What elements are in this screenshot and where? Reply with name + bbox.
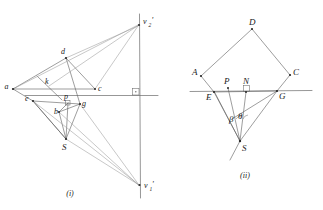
figure-i-ray-s-to-v1 <box>66 139 139 185</box>
figure-ii-group: A C D E G N P S β θ (ii) <box>190 17 312 180</box>
figure-i-point-g <box>79 103 81 105</box>
figure-i-label-v2-base: v <box>143 17 147 26</box>
figure-ii-label-c: C <box>293 67 300 77</box>
figure-i-label-v1-base: v <box>144 181 148 190</box>
figure-ii-edge-a-e <box>201 76 214 92</box>
figure-i-vertical-axis <box>140 14 141 198</box>
figure-ii-point-e <box>213 91 215 93</box>
figure-i-label-v1-prime: ' <box>152 180 154 189</box>
figure-ii-label-e: E <box>205 92 212 102</box>
figure-ii-right-angle-mark-at-n <box>244 86 250 92</box>
figure-ii-point-d <box>251 28 253 30</box>
figure-ii-extension-below-s <box>230 141 240 160</box>
figure-i-ray-e-to-v1 <box>33 101 139 185</box>
figure-i-point-a <box>12 88 14 90</box>
figure-i-label-p: p <box>63 92 68 101</box>
figure-i-point-d <box>65 57 67 59</box>
figure-ii-label-p: P <box>223 76 230 86</box>
figure-ii-edge-a-d-c <box>201 29 290 76</box>
figure-ii-label-n: N <box>242 76 250 86</box>
figure-ii-point-a <box>200 75 202 77</box>
figure-i-edge-e-g <box>33 101 80 104</box>
figure-i-point-v2 <box>138 24 140 26</box>
figure-sheet: a c d k e b p g S v 2 ' v 1 ' (i) <box>0 0 323 210</box>
figure-ii-edge-e-s-secondary <box>215 93 240 141</box>
figure-i-label-s: S <box>62 142 67 152</box>
figure-i-group: a c d k e b p g S v 2 ' v 1 ' (i) <box>5 14 159 198</box>
figure-ii-label-theta: θ <box>238 111 243 121</box>
figure-i-label-k: k <box>45 77 49 86</box>
figure-i-label-c: c <box>98 84 102 93</box>
figure-i-point-v1 <box>138 184 140 186</box>
figure-ii-label-beta: β <box>228 114 234 124</box>
figure-i-ray-b-to-v1 <box>59 112 139 186</box>
figure-i-label-v1: v 1 ' <box>144 180 154 192</box>
figure-i-point-c <box>94 88 96 90</box>
figure-ii-edge-c-g <box>277 75 290 91</box>
figure-ii-point-p <box>227 87 229 89</box>
figure-ii-label-g: G <box>279 91 286 101</box>
figure-i-caption: (i) <box>66 189 74 198</box>
figure-ii-label-a: A <box>191 67 198 77</box>
figure-i-label-g: g <box>82 99 86 108</box>
figure-ii-point-s <box>239 140 241 142</box>
figure-i-right-angle-dot <box>135 91 136 92</box>
figure-i-label-d: d <box>61 47 66 56</box>
technical-drawing-canvas: a c d k e b p g S v 2 ' v 1 ' (i) <box>0 0 323 210</box>
figure-i-point-s <box>65 138 67 140</box>
figure-i-edge-b-p <box>59 103 68 112</box>
figure-i-label-v2: v 2 ' <box>143 16 154 28</box>
figure-i-point-e <box>32 100 34 102</box>
figure-i-label-b: b <box>54 107 58 116</box>
figure-ii-label-d: D <box>248 17 256 27</box>
figure-i-label-e: e <box>25 94 29 103</box>
figure-i-edge-g-s <box>66 104 80 139</box>
figure-i-ray-g-to-v1 <box>80 104 139 185</box>
figure-i-edge-d-g <box>66 58 80 104</box>
figure-i-point-b <box>58 111 60 113</box>
figure-ii-point-g <box>276 90 278 92</box>
figure-ii-point-c <box>289 74 291 76</box>
figure-ii-label-s: S <box>242 143 247 153</box>
figure-i-label-a: a <box>5 82 9 91</box>
figure-i-edge-a-d-c <box>13 58 95 89</box>
figure-i-label-v2-prime: ' <box>152 16 154 25</box>
figure-ii-angle-arc-theta <box>243 115 248 119</box>
figure-ii-point-n <box>245 91 247 93</box>
figure-ii-caption: (ii) <box>240 171 250 180</box>
